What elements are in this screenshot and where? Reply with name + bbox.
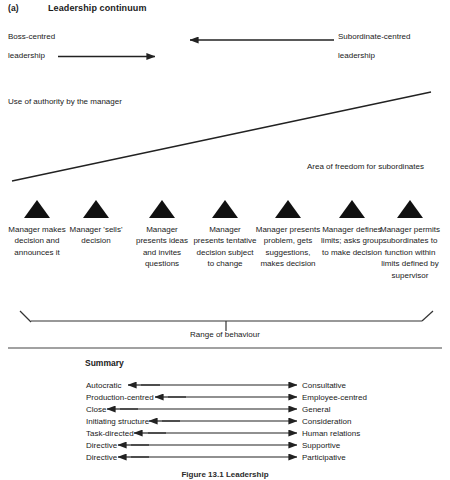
continuum-step-3-text: Manager presents ideas and invites quest… — [130, 224, 194, 270]
triangle-marker-4 — [212, 200, 238, 218]
area-of-freedom-label: Area of freedom for subordinates — [307, 161, 424, 173]
summary-row-3-left: Close — [86, 405, 450, 415]
triangle-marker-6 — [339, 200, 365, 218]
subordinate-centred-label-line1: Subordinate-centred — [338, 31, 411, 43]
summary-row-4-left: Initiating structure — [86, 417, 450, 427]
range-of-behaviour-label: Range of behaviour — [0, 329, 450, 341]
continuum-step-5-text: Manager presents problem, gets suggestio… — [253, 224, 323, 270]
subordinate-centred-label-line2: leadership — [338, 50, 375, 62]
summary-row-2-right: Employee-centred — [302, 393, 367, 403]
summary-row-7-left: Directive — [86, 453, 450, 463]
boss-centred-label-line2: leadership — [8, 50, 45, 62]
figure-canvas: (a) Leadership continuum Boss-centred le… — [0, 0, 450, 480]
continuum-step-1-text: Manager makes decision and announces it — [5, 224, 69, 258]
summary-row-5-left: Task-directed — [86, 429, 450, 439]
boss-centred-label-line1: Boss-centred — [8, 31, 55, 43]
figure-caption: Figure 13.1 Leadership — [0, 470, 450, 479]
range-of-behaviour-bracket — [20, 311, 433, 331]
summary-row-5-right: Human relations — [302, 429, 360, 439]
summary-row-4-right: Consideration — [302, 417, 351, 427]
triangle-marker-7 — [397, 200, 423, 218]
summary-row-6-right: Supportive — [302, 441, 340, 451]
triangle-marker-3 — [149, 200, 175, 218]
continuum-step-7-text: Manager permits subordinates to function… — [375, 224, 445, 281]
summary-row-1-right: Consultative — [302, 381, 346, 391]
figure-title: Leadership continuum — [48, 3, 147, 13]
summary-row-6-left: Directive — [86, 441, 450, 451]
triangle-marker-5 — [275, 200, 301, 218]
continuum-step-4-text: Manager presents tentative decision subj… — [193, 224, 257, 270]
triangle-marker-2 — [83, 200, 109, 218]
figure-part-label: (a) — [8, 3, 19, 13]
continuum-step-2-text: Manager 'sells' decision — [64, 224, 128, 247]
summary-row-3-right: General — [302, 405, 330, 415]
use-of-authority-label: Use of authority by the manager — [8, 96, 122, 108]
summary-row-2-left: Production-centred — [86, 393, 450, 403]
summary-title: Summary — [85, 358, 124, 368]
summary-row-7-right: Participative — [302, 453, 346, 463]
triangle-marker-1 — [24, 200, 50, 218]
